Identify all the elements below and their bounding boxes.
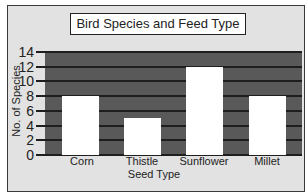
y-tick-mark bbox=[36, 110, 45, 112]
y-tick-label: 8 bbox=[12, 89, 34, 103]
bar-corn bbox=[62, 96, 99, 155]
gridline bbox=[45, 51, 302, 53]
x-tick-label: Millet bbox=[232, 155, 302, 167]
y-tick-mark bbox=[36, 51, 45, 53]
y-tick-mark bbox=[36, 125, 45, 127]
plot-area bbox=[45, 52, 302, 155]
gridline bbox=[45, 80, 302, 82]
y-tick-label: 4 bbox=[12, 119, 34, 133]
y-tick-mark bbox=[36, 95, 45, 97]
y-tick-label: 6 bbox=[12, 104, 34, 118]
y-tick-mark bbox=[36, 154, 45, 156]
x-tick-label: Thistle bbox=[107, 155, 177, 167]
y-tick-mark bbox=[36, 66, 45, 68]
y-tick-label: 12 bbox=[12, 60, 34, 74]
y-tick-mark bbox=[36, 139, 45, 141]
chart-title: Bird Species and Feed Type bbox=[70, 13, 246, 35]
x-axis-title: Seed Type bbox=[0, 168, 308, 180]
bar-millet bbox=[249, 96, 286, 155]
gridline bbox=[45, 66, 302, 68]
y-tick-mark bbox=[36, 80, 45, 82]
y-tick-label: 10 bbox=[12, 74, 34, 88]
x-tick-label: Sunflower bbox=[169, 155, 239, 167]
bar-thistle bbox=[124, 118, 161, 155]
y-tick-label: 14 bbox=[12, 45, 34, 59]
y-tick-label: 2 bbox=[12, 133, 34, 147]
bar-sunflower bbox=[186, 67, 223, 155]
y-tick-label: 0 bbox=[12, 148, 34, 162]
